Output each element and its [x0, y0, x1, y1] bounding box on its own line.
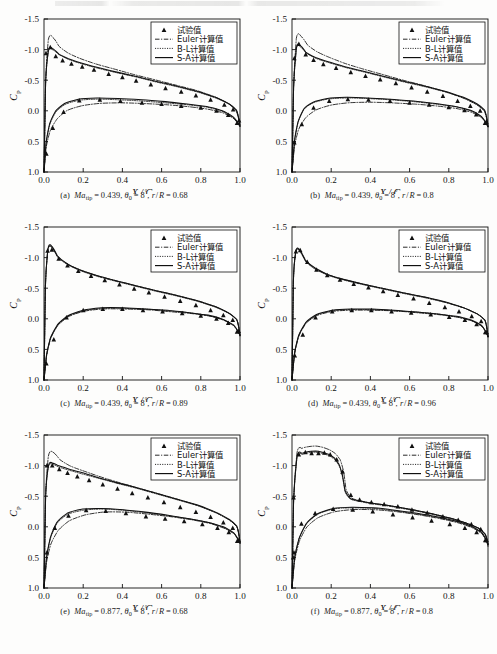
y-tick-label: -1.0: [25, 461, 40, 471]
figure-panel-a: 0.00.20.40.60.81.0-1.5-1.0-0.50.00.51.0X…: [0, 8, 248, 216]
curve-dotted-upper: [44, 48, 240, 172]
data-point: [441, 94, 446, 99]
figure-panel-d: 0.00.20.40.60.81.0-1.5-1.0-0.50.00.51.0X…: [248, 216, 496, 424]
data-point: [292, 353, 297, 358]
figure-panel-f: 0.00.20.40.60.81.0-1.5-1.0-0.50.00.51.0X…: [248, 424, 496, 640]
y-tick-label: 1.0: [276, 375, 288, 385]
x-tick-label: 0.0: [286, 591, 298, 601]
x-tick-label: 0.0: [38, 175, 50, 185]
plot-area-a: 0.00.20.40.60.81.0-1.5-1.0-0.50.00.51.0X…: [0, 8, 248, 194]
plot-area-d: 0.00.20.40.60.81.0-1.5-1.0-0.50.00.51.0X…: [248, 216, 496, 402]
data-point: [469, 314, 474, 319]
y-tick-label: 1.0: [28, 375, 40, 385]
data-point: [60, 58, 65, 63]
data-point: [194, 510, 199, 515]
data-point: [208, 97, 213, 102]
svg-text:CP: CP: [8, 506, 22, 517]
data-point: [65, 470, 70, 475]
panel-caption-f: (f) Matip = 0.877, θ0 = 8°, r / R = 0.8: [248, 604, 496, 617]
data-point: [425, 89, 430, 94]
caption-ma-value: 0.439: [101, 191, 120, 200]
data-markers-lower: [292, 97, 487, 145]
y-tick-label: -0.5: [25, 492, 40, 502]
y-axis-label: CP: [256, 298, 270, 309]
data-point: [297, 42, 302, 47]
curve-dotted-lower: [44, 509, 240, 588]
x-tick-label: 0.2: [78, 175, 90, 185]
x-tick-label: 0.6: [404, 383, 416, 393]
y-tick-label: -1.5: [25, 14, 40, 24]
y-tick-label: -1.0: [273, 461, 288, 471]
caption-tag: (f): [311, 607, 320, 616]
data-point: [396, 292, 401, 297]
panel-caption-b: (b) Matip = 0.439, θ0 = 8°, r / R = 0.8: [248, 188, 496, 201]
x-tick-label: 0.4: [117, 383, 129, 393]
data-point: [134, 78, 139, 83]
x-tick-label: 0.0: [38, 383, 50, 393]
y-tick-label: 0.0: [276, 314, 288, 324]
x-tick-label: 1.0: [482, 175, 494, 185]
legend: 试验值Euler计算值B-L计算值S-A计算值: [399, 438, 485, 480]
caption-tag: (c): [60, 399, 70, 408]
caption-ma-value: 0.877: [351, 607, 370, 616]
y-axis-label: CP: [8, 298, 22, 309]
data-point: [124, 511, 129, 516]
data-point: [411, 296, 416, 301]
data-point: [194, 93, 199, 98]
y-tick-label: 0.5: [28, 137, 40, 147]
plot-area-f: 0.00.20.40.60.81.0-1.5-1.0-0.50.00.51.0X…: [248, 424, 496, 610]
data-point: [378, 77, 383, 82]
data-point: [443, 305, 448, 310]
x-tick-label: 0.2: [326, 175, 338, 185]
figure-panel-e: 0.00.20.40.60.81.0-1.5-1.0-0.50.00.51.0X…: [0, 424, 248, 640]
data-point: [106, 72, 111, 77]
svg-text:CP: CP: [256, 506, 270, 517]
legend-label: S-A计算值: [425, 53, 464, 63]
data-point: [178, 299, 183, 304]
data-point: [101, 482, 106, 487]
y-tick-label: 0.5: [276, 553, 288, 563]
x-tick-label: 0.4: [365, 175, 377, 185]
data-point: [382, 502, 387, 507]
y-tick-label: 1.0: [28, 167, 40, 177]
y-tick-label: 0.0: [28, 106, 40, 116]
caption-ma-value: 0.439: [349, 399, 368, 408]
curve-dash-dot-lower: [292, 102, 488, 172]
data-point: [427, 300, 432, 305]
data-point: [294, 249, 299, 254]
data-markers-lower: [45, 508, 240, 555]
y-tick-label: -1.0: [25, 45, 40, 55]
plot-area-e: 0.00.20.40.60.81.0-1.5-1.0-0.50.00.51.0X…: [0, 424, 248, 610]
y-tick-label: -0.5: [273, 284, 288, 294]
y-tick-label: -1.5: [273, 14, 288, 24]
caption-rr-value: 0.8: [422, 607, 433, 616]
data-point: [52, 526, 57, 531]
y-axis-label: CP: [8, 90, 22, 101]
data-point: [75, 474, 80, 479]
data-point: [313, 511, 318, 516]
curve-solid-upper: [44, 462, 240, 588]
data-point: [334, 65, 339, 70]
legend-label: S-A计算值: [177, 261, 216, 271]
data-point: [69, 61, 74, 65]
caption-tag: (a): [60, 191, 70, 200]
y-tick-label: -1.0: [25, 253, 40, 263]
data-point: [349, 70, 354, 75]
data-point: [130, 491, 135, 496]
curve-dotted-lower: [292, 310, 488, 380]
x-tick-label: 0.2: [326, 383, 338, 393]
y-tick-label: 0.5: [276, 137, 288, 147]
data-point: [357, 497, 362, 502]
curve-solid-lower: [44, 308, 240, 380]
data-point: [92, 67, 97, 72]
data-point: [455, 99, 460, 104]
legend: 试验值Euler计算值B-L计算值S-A计算值: [399, 230, 485, 272]
data-point: [117, 282, 122, 287]
caption-ma-value: 0.439: [351, 191, 370, 200]
data-point: [463, 526, 468, 531]
panel-caption-e: (e) Matip = 0.877, θ0 = 8°, r / R = 0.68: [0, 604, 248, 617]
caption-rr-value: 0.96: [421, 399, 436, 408]
legend-label: S-A计算值: [425, 261, 464, 271]
plot-area-b: 0.00.20.40.60.81.0-1.5-1.0-0.50.00.51.0X…: [248, 8, 496, 194]
scanned-page: 0.00.20.40.60.81.0-1.5-1.0-0.50.00.51.0X…: [0, 0, 497, 654]
